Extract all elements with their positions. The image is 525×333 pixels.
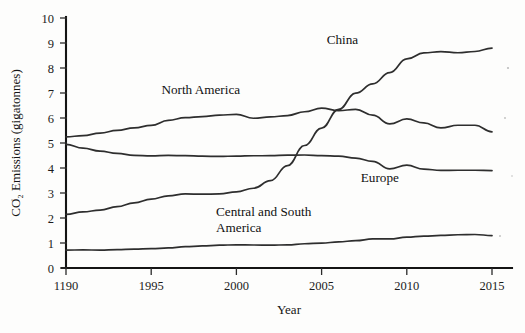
y-tick-label-2: 2: [48, 212, 54, 226]
y-tick-label-0: 0: [48, 262, 54, 276]
y-tick-label-4: 4: [48, 162, 55, 176]
series-label-china: China: [327, 32, 359, 47]
x-tick-label-2015: 2015: [480, 279, 505, 293]
x-tick-label-2000: 2000: [224, 279, 249, 293]
x-axis-ticks: 119019952000200520102015: [54, 268, 505, 293]
series-path-central-and-south-america: [66, 234, 492, 250]
series-label-central-south-america-line1: Central and South: [216, 204, 312, 219]
y-tick-label-7: 7: [48, 87, 54, 101]
series-label-europe: Europe: [361, 170, 399, 185]
y-tick-label-10: 10: [42, 12, 55, 26]
x-axis-title: Year: [277, 302, 302, 317]
y-tick-label-8: 8: [48, 62, 54, 76]
x-tick-label-1190: 1190: [54, 279, 79, 293]
y-tick-label-1: 1: [48, 237, 54, 251]
y-axis-ticks: 012345678910: [42, 12, 68, 276]
chart-figure: 012345678910 119019952000200520102015 Ch…: [0, 0, 525, 333]
series-path-china: [66, 48, 492, 214]
y-tick-label-3: 3: [48, 187, 54, 201]
series-label-north-america: North America: [161, 82, 240, 97]
y-tick-label-5: 5: [48, 137, 54, 151]
axis-group: [62, 17, 512, 268]
y-axis-title: CO₂ Emissions (gigatonnes): [8, 69, 23, 217]
series-label-central-south-america-line2: America: [216, 220, 262, 235]
series-lines: [66, 48, 492, 250]
co2-emissions-line-chart: 012345678910 119019952000200520102015 Ch…: [0, 0, 525, 333]
series-path-europe: [66, 144, 492, 170]
x-tick-label-2010: 2010: [394, 279, 419, 293]
x-tick-label-1995: 1995: [139, 279, 164, 293]
x-tick-label-2005: 2005: [309, 279, 334, 293]
y-tick-label-9: 9: [48, 37, 54, 51]
series-path-north-america: [66, 108, 492, 137]
y-tick-label-6: 6: [48, 112, 54, 126]
